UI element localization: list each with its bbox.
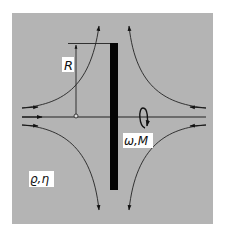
radius-label: R: [64, 58, 73, 73]
center-point: [74, 114, 78, 118]
rotation-label: ω,M: [124, 134, 149, 148]
disc-flow-diagram: R ω,M ϱ,η: [0, 0, 225, 236]
rotating-disc: [110, 43, 118, 190]
fluid-label: ϱ,η: [30, 172, 49, 186]
